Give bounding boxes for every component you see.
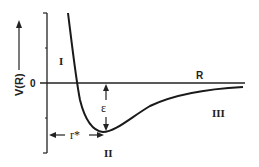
region-label-2: II xyxy=(104,147,113,159)
arrow-up-icon xyxy=(103,84,109,91)
x-axis-label: R xyxy=(196,70,204,81)
equilibrium-label: r* xyxy=(70,128,80,142)
y-axis-label: V(R) xyxy=(13,73,25,96)
arrow-left-icon xyxy=(49,132,56,138)
arrow-down-icon xyxy=(103,124,109,131)
zero-label: 0 xyxy=(30,78,36,89)
region-label-3: III xyxy=(212,107,225,119)
potential-diagram: V(R) 0 R ε r* I II III xyxy=(0,0,259,167)
well-depth-label: ε xyxy=(101,101,106,115)
region-label-1: I xyxy=(59,55,63,67)
